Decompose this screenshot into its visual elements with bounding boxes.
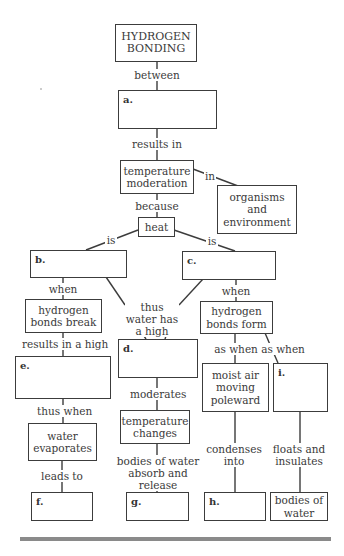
link-between: between xyxy=(133,69,181,81)
node-i-blank[interactable]: i. xyxy=(273,363,328,412)
node-f-blank[interactable]: f. xyxy=(31,492,93,521)
node-organisms-environment: organisms and environment xyxy=(217,185,297,234)
node-c-blank[interactable]: c. xyxy=(182,251,276,280)
node-water-evaporates: water evaporates xyxy=(28,423,97,461)
node-d-letter: d. xyxy=(119,340,133,356)
node-temperature-moderation: temperature moderation xyxy=(120,160,194,194)
node-h-blank[interactable]: h. xyxy=(204,492,266,521)
link-because: because xyxy=(132,200,182,212)
link-in: in xyxy=(204,170,216,182)
node-e-blank[interactable]: e. xyxy=(15,356,111,399)
link-moderates: moderates xyxy=(130,388,186,400)
node-heat: heat xyxy=(138,217,175,237)
link-as-when-2: as when xyxy=(261,343,305,355)
node-e-letter: e. xyxy=(16,357,30,373)
node-i-letter: i. xyxy=(274,364,285,380)
node-b-blank[interactable]: b. xyxy=(30,250,127,278)
node-hydrogen-bonds-form: hydrogen bonds form xyxy=(200,301,273,334)
link-as-when-1: as when xyxy=(214,343,258,355)
node-g-letter: g. xyxy=(127,493,141,509)
node-hydrogen-bonds-break: hydrogen bonds break xyxy=(25,299,102,333)
node-temperature-changes: temperature changes xyxy=(120,410,190,444)
link-floats-and-insulates: floats and insulates xyxy=(271,443,327,467)
link-results-in: results in xyxy=(129,138,185,150)
node-h-letter: h. xyxy=(205,493,220,509)
bottom-divider xyxy=(20,537,331,541)
link-when-right: when xyxy=(220,285,252,297)
node-c-letter: c. xyxy=(183,252,197,268)
link-when-left: when xyxy=(47,283,79,295)
node-bodies-of-water: bodies of water xyxy=(270,492,328,521)
link-is-left: is xyxy=(105,234,117,246)
node-g-blank[interactable]: g. xyxy=(126,492,189,521)
node-hydrogen-bonding: HYDROGEN BONDING xyxy=(115,24,197,62)
node-d-blank[interactable]: d. xyxy=(118,339,198,378)
node-moist-air-moving-poleward: moist air moving poleward xyxy=(202,363,269,412)
link-leads-to: leads to xyxy=(39,470,85,482)
link-condenses-into: condenses into xyxy=(206,443,262,467)
node-a-blank[interactable]: a. xyxy=(118,90,217,129)
link-is-right: is xyxy=(206,235,218,247)
link-thus-when: thus when xyxy=(37,405,89,417)
node-f-letter: f. xyxy=(32,493,43,509)
link-bodies-absorb-release: bodies of water absorb and release xyxy=(112,455,204,491)
stray-mark xyxy=(40,88,42,90)
link-thus-water-has-a-high: thus water has a high xyxy=(125,301,179,337)
node-b-letter: b. xyxy=(31,251,45,267)
node-a-letter: a. xyxy=(119,91,133,107)
link-results-in-a-high: results in a high xyxy=(22,338,104,350)
